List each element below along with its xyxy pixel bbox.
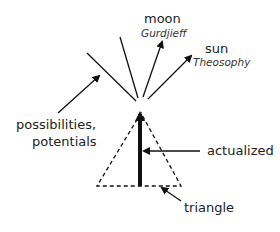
triangle-pointer-arrow (162, 188, 181, 201)
diagram-canvas (0, 0, 280, 232)
triangle-label: triangle (184, 200, 234, 215)
moon-sublabel: Gurdjieff (141, 27, 187, 39)
sun-sublabel: Theosophy (193, 56, 250, 68)
moon-label: moon (144, 11, 181, 26)
possibility-line-left (87, 53, 136, 101)
possibilities-arrow (58, 76, 99, 113)
actualized-label: actualized (207, 143, 274, 158)
sun-label: sun (205, 41, 228, 56)
possibilities-label: possibilities, (16, 117, 96, 132)
potentials-label: potentials (32, 134, 97, 149)
